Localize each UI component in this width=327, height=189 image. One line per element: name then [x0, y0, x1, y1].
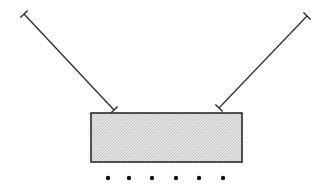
left-line: [20, 11, 117, 114]
dots-row: [106, 176, 225, 180]
lines-group: [20, 11, 310, 114]
dot-3: [150, 176, 154, 180]
dot-4: [174, 176, 178, 180]
shaded-rectangle: [91, 113, 242, 162]
dot-2: [127, 176, 131, 180]
dot-6: [221, 176, 225, 180]
diagram-canvas: [0, 0, 327, 189]
dot-5: [197, 176, 201, 180]
right-line: [215, 13, 310, 112]
dot-1: [106, 176, 110, 180]
